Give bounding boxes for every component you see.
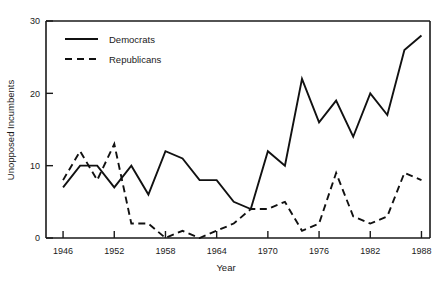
- x-tick-label: 1964: [207, 246, 227, 256]
- x-tick-label: 1946: [53, 246, 73, 256]
- legend-label-democrats: Democrats: [109, 34, 155, 45]
- line-chart: 0102030 19461952195819641970197619821988…: [0, 0, 442, 283]
- x-tick-label: 1970: [258, 246, 278, 256]
- x-tick-label: 1988: [411, 246, 431, 256]
- y-tick-label: 30: [30, 16, 40, 26]
- x-tick-label: 1982: [360, 246, 380, 256]
- x-tick-label: 1952: [104, 246, 124, 256]
- y-tick-label: 10: [30, 161, 40, 171]
- x-tick-label: 1976: [309, 246, 329, 256]
- y-tick-label: 0: [35, 233, 40, 243]
- y-tick-label: 20: [30, 89, 40, 99]
- x-tick-label: 1958: [155, 246, 175, 256]
- chart-background: [0, 0, 442, 283]
- legend-label-republicans: Republicans: [109, 54, 162, 65]
- x-axis-title: Year: [216, 262, 235, 273]
- y-axis-title: Unopposed Incumbents: [5, 80, 16, 181]
